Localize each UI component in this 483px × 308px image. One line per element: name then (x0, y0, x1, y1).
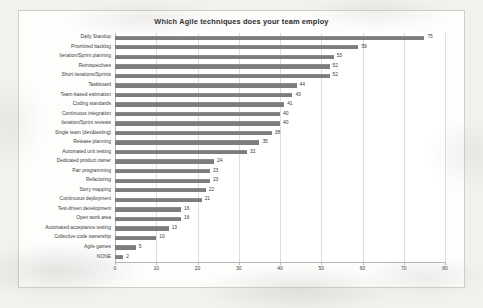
bar-row: Collective code ownership10 (115, 233, 445, 243)
bar (115, 179, 210, 183)
bar-row: Test-driven development16 (115, 205, 445, 215)
bar-value-label: 24 (217, 159, 222, 164)
bar-value-label: 23 (213, 178, 218, 183)
bar-value-label: 52 (333, 64, 338, 69)
bar-value-label: 16 (184, 216, 189, 221)
bar (115, 198, 202, 202)
category-label: Release planning (73, 140, 111, 145)
bar-row: Team-based estimation43 (115, 90, 445, 100)
bar (115, 255, 123, 259)
bar (115, 207, 181, 211)
bar (115, 169, 210, 173)
bar (115, 131, 272, 135)
category-label: Taskboard (88, 83, 111, 88)
bar-row: Dedicated product owner24 (115, 157, 445, 167)
category-label: Prioritized backlog (71, 45, 111, 50)
bar-row: Continuous integration40 (115, 109, 445, 119)
bar-row: Story mapping22 (115, 186, 445, 196)
category-label: Pair programming (72, 169, 111, 174)
bar-value-label: 38 (275, 131, 280, 136)
bar-value-label: 5 (139, 245, 142, 250)
category-label: Automated acceptance testing (45, 226, 111, 231)
bar-row: Automated acceptance testing13 (115, 224, 445, 234)
bar-value-label: 41 (287, 102, 292, 107)
x-axis: 01020304050607080 (115, 262, 445, 278)
category-label: Team-based estimation (60, 93, 111, 98)
bar-row: Open work area16 (115, 214, 445, 224)
bar-value-label: 75 (427, 35, 432, 40)
bar-row: Coding standards41 (115, 100, 445, 110)
category-label: Daily Standup (81, 35, 111, 40)
bar-row: Release planning35 (115, 138, 445, 148)
bar-value-label: 43 (295, 93, 300, 98)
category-label: Continuous integration (62, 112, 111, 117)
plot-area: Daily Standup75Prioritized backlog59Iter… (115, 33, 445, 262)
bar (115, 236, 156, 240)
tick-label: 30 (236, 266, 242, 271)
bar (115, 74, 330, 78)
chart-container: Which Agile techniques does your team em… (18, 10, 465, 288)
bar-value-label: 52 (333, 73, 338, 78)
tick-label: 0 (114, 266, 117, 271)
tick-label: 80 (442, 266, 448, 271)
category-label: Iteration/Sprint reviews (61, 121, 111, 126)
bar (115, 188, 206, 192)
bar-row: Agile games5 (115, 243, 445, 253)
bar-rows: Daily Standup75Prioritized backlog59Iter… (115, 33, 445, 262)
bar-row: Retrospectives52 (115, 62, 445, 72)
bar-value-label: 13 (172, 226, 177, 231)
bar-row: Continuous deployment21 (115, 195, 445, 205)
category-label: Coding standards (73, 102, 111, 107)
bar-row: Iteration/Sprint planning53 (115, 52, 445, 62)
bar-value-label: 40 (283, 112, 288, 117)
tick-label: 20 (195, 266, 201, 271)
category-label: Dedicated product owner (57, 159, 111, 164)
bar-value-label: 16 (184, 207, 189, 212)
chart-title: Which Agile techniques does your team em… (19, 17, 464, 26)
bar (115, 55, 334, 59)
bar (115, 36, 424, 40)
category-label: Automated unit testing (62, 150, 111, 155)
category-label: Short iterations/Sprints (62, 73, 111, 78)
bar (115, 140, 259, 144)
bar-value-label: 21 (205, 197, 210, 202)
bar (115, 150, 247, 154)
tick-label: 40 (277, 266, 283, 271)
category-label: NONE (97, 255, 111, 260)
bar (115, 226, 169, 230)
bar-value-label: 2 (126, 255, 129, 260)
bar (115, 217, 181, 221)
category-label: Refactoring (86, 178, 111, 183)
bar-value-label: 32 (250, 150, 255, 155)
bar (115, 93, 292, 97)
bar-row: Pair programming23 (115, 166, 445, 176)
bar (115, 159, 214, 163)
bar-value-label: 53 (337, 54, 342, 59)
bar-row: Automated unit testing32 (115, 147, 445, 157)
category-label: Collective code ownership (54, 235, 111, 240)
category-label: Continuous deployment (60, 197, 111, 202)
bar-row: Refactoring23 (115, 176, 445, 186)
bar-value-label: 10 (159, 235, 164, 240)
bar-row: Single team (dev&testing)38 (115, 128, 445, 138)
bar-row: Prioritized backlog59 (115, 43, 445, 53)
category-label: Test-driven development (58, 207, 111, 212)
category-label: Single team (dev&testing) (55, 131, 111, 136)
category-label: Iteration/Sprint planning (59, 54, 111, 59)
bar-value-label: 35 (262, 140, 267, 145)
bar-value-label: 23 (213, 169, 218, 174)
tick-label: 60 (360, 266, 366, 271)
category-label: Story mapping (79, 188, 111, 193)
bar-value-label: 40 (283, 121, 288, 126)
tick-label: 10 (153, 266, 159, 271)
tick-label: 70 (401, 266, 407, 271)
gridline (445, 33, 446, 262)
bar (115, 121, 280, 125)
bar-value-label: 59 (361, 45, 366, 50)
bar-row: Daily Standup75 (115, 33, 445, 43)
bar (115, 245, 136, 249)
bar (115, 83, 297, 87)
bar (115, 45, 358, 49)
bar (115, 64, 330, 68)
bar-value-label: 44 (300, 83, 305, 88)
